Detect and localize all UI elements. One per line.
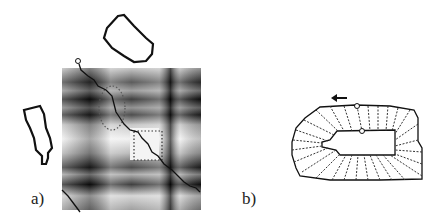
contour-shape-left — [24, 106, 52, 164]
inner-start-marker — [360, 129, 365, 134]
panel-a-label: a) — [31, 189, 44, 209]
inner-contour — [322, 130, 395, 155]
panel-b-label: b) — [242, 189, 256, 209]
outer-start-marker — [355, 104, 360, 109]
correspondence-lines — [292, 106, 422, 180]
contour-shape-top — [104, 15, 153, 62]
panel-b — [292, 94, 422, 180]
figure-canvas — [0, 0, 443, 222]
panel-a — [24, 15, 201, 212]
direction-arrow-icon — [331, 94, 347, 102]
path-start-marker — [76, 59, 81, 64]
